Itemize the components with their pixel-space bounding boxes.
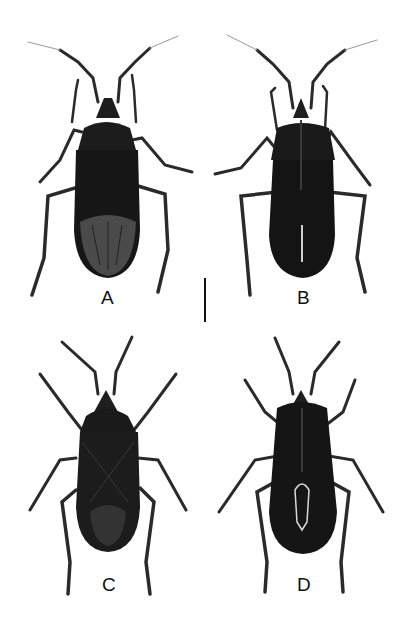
insect-specimen-dorsal-icon (0, 0, 205, 312)
panel-b: B (205, 0, 410, 312)
panel-label-a: A (101, 287, 114, 309)
panel-label-c: C (102, 574, 116, 596)
panel-c: C (0, 312, 205, 624)
panel-label-b: B (297, 287, 310, 309)
panel-d: D (205, 312, 410, 624)
panel-label-d: D (297, 574, 311, 596)
panel-a: A (0, 0, 205, 312)
insect-specimen-ventral-icon (205, 0, 410, 312)
